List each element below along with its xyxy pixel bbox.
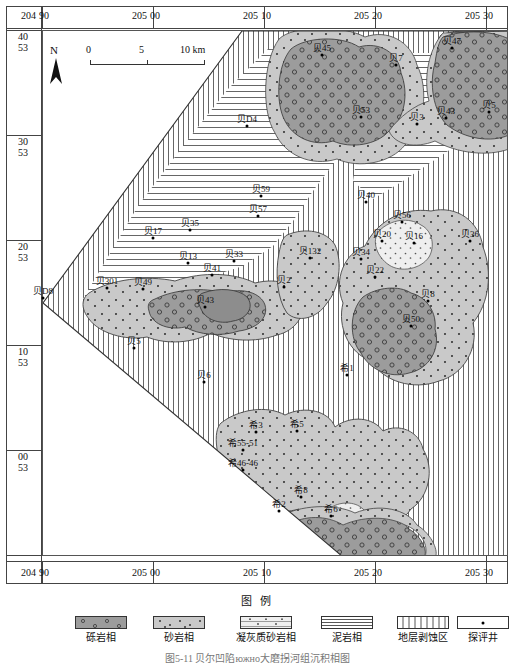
x-label-minor: 10 bbox=[261, 11, 271, 21]
legend-label-tuff: 凝灰质砂岩相 bbox=[218, 632, 314, 644]
x-label-minor: 00 bbox=[150, 568, 160, 578]
legend-swatch-sand bbox=[153, 616, 205, 629]
y-tick-5 bbox=[6, 555, 42, 556]
gravel-core-north bbox=[279, 39, 405, 145]
well-dot-icon bbox=[487, 110, 492, 115]
x-label-major: 205 bbox=[354, 568, 369, 578]
x-label-major: 205 bbox=[354, 11, 369, 21]
well-dot-icon bbox=[254, 430, 259, 435]
y-label-bottom: 53 bbox=[8, 147, 38, 158]
well-dot-icon bbox=[426, 299, 431, 304]
x-label-major: 205 bbox=[465, 568, 480, 578]
legend-label-mud: 泥岩相 bbox=[314, 632, 380, 644]
legend-label-well: 探评井 bbox=[452, 632, 514, 644]
legend-item-well[interactable]: 探评井 bbox=[452, 616, 514, 644]
scale-bar-tick-mid bbox=[147, 60, 148, 65]
well-dot-icon bbox=[444, 116, 449, 121]
well-dot-icon bbox=[256, 214, 261, 219]
well-dot-icon bbox=[241, 468, 246, 473]
legend-swatch-well bbox=[457, 616, 509, 629]
well-dot-icon bbox=[329, 514, 334, 519]
tuff-pattern-icon bbox=[241, 617, 292, 629]
north-letter: N bbox=[50, 44, 58, 56]
x-label-major: 205 bbox=[243, 568, 258, 578]
x-axis-label-bottom-3: 20520 bbox=[354, 568, 382, 578]
eroded-pattern-icon bbox=[398, 617, 449, 629]
y-axis-label-left-3: 10 53 bbox=[8, 346, 38, 368]
x-label-minor: 90 bbox=[39, 568, 49, 578]
x-axis-label-top-2: 20510 bbox=[243, 11, 271, 21]
x-axis-label-top-4: 20530 bbox=[465, 11, 493, 21]
y-axis-label-left-4: 00 53 bbox=[8, 451, 38, 473]
well-dot-icon bbox=[105, 286, 110, 291]
x-label-minor: 30 bbox=[483, 568, 493, 578]
well-dot-icon bbox=[373, 275, 378, 280]
y-label-bottom: 53 bbox=[8, 357, 38, 368]
x-label-major: 205 bbox=[132, 568, 147, 578]
well-dot-icon bbox=[415, 122, 420, 127]
y-axis-label-left-0: 40 53 bbox=[8, 31, 38, 53]
x-axis-label-top-3: 20520 bbox=[354, 11, 382, 21]
sand-pattern-icon bbox=[154, 617, 205, 629]
legend-item-tuff[interactable]: 凝灰质砂岩相 bbox=[218, 616, 314, 644]
well-dot-icon bbox=[359, 115, 364, 120]
x-axis-label-bottom-4: 20530 bbox=[465, 568, 493, 578]
legend-swatch-tuff bbox=[240, 616, 292, 629]
well-dot-icon bbox=[186, 261, 191, 266]
x-axis-label-bottom-2: 20510 bbox=[243, 568, 271, 578]
x-label-minor: 20 bbox=[372, 11, 382, 21]
x-label-major: 205 bbox=[465, 11, 480, 21]
scale-bar-tick-left bbox=[90, 60, 91, 65]
well-dot-icon bbox=[412, 241, 417, 246]
legend-swatch-mud bbox=[321, 616, 373, 629]
well-dot-icon bbox=[400, 220, 405, 225]
x-label-minor: 00 bbox=[150, 11, 160, 21]
y-label-bottom: 53 bbox=[8, 462, 38, 473]
well-dot-icon bbox=[188, 228, 193, 233]
well-dot-icon bbox=[450, 46, 455, 51]
well-dot-icon bbox=[151, 236, 156, 241]
x-label-major: 204 bbox=[21, 11, 36, 21]
y-label-top: 00 bbox=[8, 451, 38, 462]
well-dot-icon bbox=[232, 259, 237, 264]
well-dot-icon bbox=[468, 239, 473, 244]
scale-bar: 0 5 10 km bbox=[86, 45, 208, 73]
x-label-major: 204 bbox=[21, 568, 36, 578]
well-dot-icon bbox=[203, 305, 208, 310]
legend-title: 图 例 bbox=[0, 592, 515, 608]
legend-item-mud[interactable]: 泥岩相 bbox=[314, 616, 380, 644]
legend-row: 砾岩相 砂岩相 bbox=[0, 616, 515, 652]
x-label-major: 205 bbox=[132, 11, 147, 21]
x-label-minor: 10 bbox=[261, 568, 271, 578]
mud-pattern-icon bbox=[322, 617, 373, 629]
scale-bar-labels: 0 5 10 km bbox=[86, 45, 208, 58]
well-dot-icon bbox=[241, 448, 246, 453]
y-label-bottom: 53 bbox=[8, 252, 38, 263]
well-dot-icon bbox=[245, 124, 250, 129]
x-axis-label-top-0: 20490 bbox=[21, 11, 49, 21]
well-dot-icon bbox=[259, 194, 264, 199]
y-axis-label-left-2: 20 53 bbox=[8, 241, 38, 263]
scale-tick-2: 10 km bbox=[180, 45, 205, 55]
well-dot-icon bbox=[364, 200, 369, 205]
well-dot-icon bbox=[394, 63, 399, 68]
legend-label-sand: 砂岩相 bbox=[140, 632, 218, 644]
x-label-major: 205 bbox=[243, 11, 258, 21]
legend-label-gravel: 砾岩相 bbox=[62, 632, 140, 644]
x-label-minor: 90 bbox=[39, 11, 49, 21]
legend-item-sand[interactable]: 砂岩相 bbox=[140, 616, 218, 644]
well-dot-icon bbox=[295, 429, 300, 434]
legend-item-gravel[interactable]: 砾岩相 bbox=[62, 616, 140, 644]
well-dot-icon bbox=[282, 285, 287, 290]
well-dot-icon bbox=[210, 273, 215, 278]
well-dot-icon bbox=[380, 239, 385, 244]
well-dot-icon bbox=[345, 373, 350, 378]
x-axis-label-top-1: 20500 bbox=[132, 11, 160, 21]
y-axis-label-left-1: 30 53 bbox=[8, 136, 38, 158]
well-dot-icon bbox=[299, 495, 304, 500]
scale-tick-0: 0 bbox=[86, 45, 91, 55]
scale-bar-tick-right bbox=[204, 60, 205, 65]
north-arrow-icon bbox=[44, 56, 68, 86]
x-axis-label-bottom-1: 20500 bbox=[132, 568, 160, 578]
